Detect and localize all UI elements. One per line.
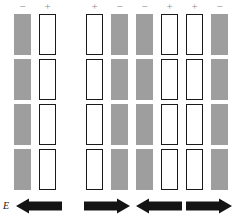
- bar-row: [86, 59, 178, 104]
- domain-bar-gray: [14, 14, 31, 55]
- domain-bar-gray: [111, 14, 128, 55]
- domain-bar-white: [161, 14, 178, 55]
- field-arrow-left: [16, 198, 62, 214]
- bar-row: [14, 59, 56, 104]
- domain-bar-gray: [211, 59, 228, 100]
- domain-bar-white: [186, 14, 203, 55]
- bar-row: [86, 14, 178, 59]
- field-arrow-right: [186, 198, 232, 214]
- domain-bar-white: [186, 104, 203, 145]
- domain-bar-gray: [136, 149, 153, 190]
- domain-bar-gray: [111, 149, 128, 190]
- domain-bar-white: [186, 149, 203, 190]
- domain-bar-white: [39, 59, 56, 100]
- polarity-sign-plus: +: [86, 0, 103, 14]
- bar-row: [186, 104, 228, 149]
- right-group-polarity-labels: +−: [186, 0, 228, 14]
- domain-bar-white: [161, 149, 178, 190]
- left-group-rows: [14, 14, 56, 194]
- bar-row: [86, 104, 178, 149]
- domain-bar-gray: [111, 59, 128, 100]
- field-arrow-right: [84, 198, 130, 214]
- field-arrow-left: [136, 198, 182, 214]
- polarity-sign-plus: +: [39, 0, 56, 14]
- polarity-sign-minus: −: [111, 0, 128, 14]
- field-label-E: E: [3, 200, 9, 211]
- polarity-sign-plus: +: [161, 0, 178, 14]
- bar-row: [186, 149, 228, 194]
- domain-bar-gray: [14, 104, 31, 145]
- domain-bar-white: [86, 149, 103, 190]
- domain-bar-gray: [211, 104, 228, 145]
- middle-group-polarity-labels: +−−+: [86, 0, 178, 14]
- domain-bar-white: [86, 59, 103, 100]
- left-group-polarity-labels: −+: [14, 0, 56, 14]
- domain-bar-white: [86, 14, 103, 55]
- domain-bar-white: [86, 104, 103, 145]
- domain-bar-white: [161, 59, 178, 100]
- right-group-rows: [186, 14, 228, 194]
- right-group: +−: [186, 0, 228, 195]
- domain-bar-gray: [14, 59, 31, 100]
- bar-row: [86, 149, 178, 194]
- domain-bar-gray: [211, 14, 228, 55]
- middle-group: +−−+: [86, 0, 178, 195]
- domain-bar-gray: [136, 14, 153, 55]
- middle-group-rows: [86, 14, 178, 194]
- bar-row: [14, 14, 56, 59]
- polarity-sign-minus: −: [14, 0, 31, 14]
- domain-bar-white: [39, 149, 56, 190]
- domain-bar-gray: [14, 149, 31, 190]
- polarity-sign-plus: +: [186, 0, 203, 14]
- domain-bar-white: [161, 104, 178, 145]
- bar-row: [14, 104, 56, 149]
- domain-bar-white: [39, 14, 56, 55]
- domain-bar-gray: [136, 104, 153, 145]
- domain-bar-gray: [136, 59, 153, 100]
- polarity-sign-minus: −: [136, 0, 153, 14]
- domain-bar-white: [186, 59, 203, 100]
- polarity-sign-minus: −: [211, 0, 228, 14]
- domain-bar-white: [39, 104, 56, 145]
- bar-row: [186, 59, 228, 104]
- domain-bar-gray: [211, 149, 228, 190]
- domain-bar-gray: [111, 104, 128, 145]
- ferroelectric-domain-diagram: −++−−++− E: [0, 0, 234, 223]
- bar-row: [186, 14, 228, 59]
- field-arrow-row: E: [0, 196, 234, 223]
- bar-row: [14, 149, 56, 194]
- left-group: −+: [14, 0, 56, 195]
